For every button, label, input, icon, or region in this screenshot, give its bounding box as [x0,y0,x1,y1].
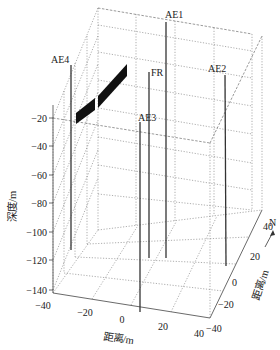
label-ae2: AE2 [208,63,226,74]
3d-borehole-chart: AE1 AE2 AE3 AE4 FR −20 −40 −60 −80 −100 … [0,0,280,350]
x-axis: −40 −20 0 20 40 距离/m [35,300,204,346]
z-tick: −120 [26,255,47,266]
x-tick: 20 [158,321,168,332]
y-tick: −40 [206,323,222,334]
z-tick: −80 [31,198,47,209]
y-tick: 0 [232,277,237,288]
y-tick: 20 [250,251,260,262]
z-axis-label: 深度/m [6,191,18,222]
x-tick: 0 [120,314,125,325]
back-wall-grid [98,8,252,230]
y-tick: −20 [218,299,234,310]
left-wall-grid [53,8,98,293]
y-axis-label: 距离/m [250,268,271,301]
fracture-plane [76,64,127,124]
x-tick: 40 [194,328,204,339]
z-tick: −140 [26,285,47,296]
z-tick: −20 [31,113,47,124]
label-ae3: AE3 [138,112,156,123]
label-fr: FR [151,67,164,78]
z-tick: −60 [31,170,47,181]
x-axis-label: 距离/m [102,330,134,346]
z-axis: −20 −40 −60 −80 −100 −120 −140 深度/m [6,105,53,296]
z-tick: −100 [26,227,47,238]
x-tick: −40 [35,300,51,311]
y-axis: 40 20 0 −20 −40 距离/m [206,221,273,334]
label-ae1: AE1 [165,9,183,20]
label-ae4: AE4 [51,54,69,65]
boreholes [71,22,226,312]
borehole-ae2 [225,75,226,266]
north-label: N [269,217,276,228]
z-tick: −40 [31,141,47,152]
borehole-labels: AE1 AE2 AE3 AE4 FR [51,9,226,123]
x-tick: −20 [77,307,93,318]
